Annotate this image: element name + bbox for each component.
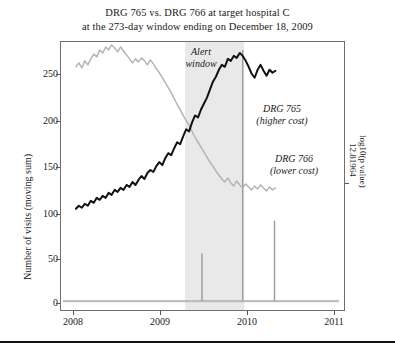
chart-title: DRG 765 vs. DRG 766 at target hospital C… — [0, 6, 395, 34]
drg766-annotation: DRG 766 (lower cost) — [251, 153, 337, 177]
drg766-label-line1: DRG 766 — [251, 153, 337, 165]
plot-area: Alert window DRG 765 (higher cost) DRG 7… — [60, 41, 345, 311]
alert-window-annotation: Alert window — [171, 46, 231, 70]
right-axis-tick-mark — [345, 183, 349, 184]
title-line-1: DRG 765 vs. DRG 766 at target hospital C — [0, 6, 395, 20]
x-tick-label-2010: 2010 — [227, 316, 267, 327]
y-tick-label-50: 50 — [28, 253, 58, 264]
drg765-label-line1: DRG 765 — [239, 103, 325, 115]
alert-window-label-line2: window — [171, 58, 231, 70]
x-tick-mark — [334, 311, 335, 315]
chart-figure: DRG 765 vs. DRG 766 at target hospital C… — [0, 0, 395, 352]
y-tick-label-100: 100 — [28, 208, 58, 219]
right-axis-tick-label: 12.81964 — [348, 143, 358, 177]
y-tick-label-250: 250 — [28, 68, 58, 79]
drg765-label-line2: (higher cost) — [239, 115, 325, 127]
y-tick-label-200: 200 — [28, 115, 58, 126]
alert-window-label-line1: Alert — [171, 46, 231, 58]
x-tick-mark — [247, 311, 248, 315]
right-axis-label: log10(p value) — [358, 135, 368, 188]
y-tick-label-150: 150 — [28, 161, 58, 172]
drg765-annotation: DRG 765 (higher cost) — [239, 103, 325, 127]
x-tick-label-2008: 2008 — [53, 316, 93, 327]
x-tick-label-2011: 2011 — [314, 316, 354, 327]
y-tick-label-0: 0 — [28, 297, 58, 308]
title-line-2: at the 273-day window ending on December… — [0, 20, 395, 34]
drg766-label-line2: (lower cost) — [251, 165, 337, 177]
x-tick-mark — [160, 311, 161, 315]
footer-rule — [0, 341, 395, 343]
x-tick-label-2009: 2009 — [140, 316, 180, 327]
x-tick-mark — [73, 311, 74, 315]
